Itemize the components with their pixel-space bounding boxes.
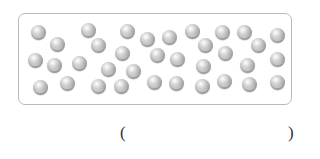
marble-icon [33, 80, 48, 95]
marble-icon [120, 24, 135, 39]
marble-icon [270, 52, 285, 67]
marble-icon [91, 79, 106, 94]
marble-icon [242, 77, 257, 92]
marble-icon [217, 74, 232, 89]
marble-icon [218, 46, 233, 61]
open-parenthesis: ( [120, 123, 126, 143]
marble-icon [81, 23, 96, 38]
marble-icon [237, 25, 252, 40]
marble-icon [114, 79, 129, 94]
marble-icon [170, 52, 185, 67]
marble-icon [195, 79, 210, 94]
marble-icon [101, 62, 116, 77]
marble-icon [147, 75, 162, 90]
close-parenthesis: ) [288, 123, 294, 143]
marble-icon [150, 48, 165, 63]
marble-icon [169, 76, 184, 91]
marble-icon [185, 24, 200, 39]
answer-blank[interactable] [132, 123, 284, 143]
marble-icon [31, 25, 46, 40]
marble-icon [251, 38, 266, 53]
marble-icon [198, 38, 213, 53]
marble-icon [115, 46, 130, 61]
marble-icon [47, 58, 62, 73]
marble-icon [270, 75, 285, 90]
marble-icon [72, 56, 87, 71]
marble-icon [140, 32, 155, 47]
marble-icon [50, 37, 65, 52]
marble-icon [91, 38, 106, 53]
marble-icon [60, 76, 75, 91]
marble-icon [196, 59, 211, 74]
marble-icon [240, 58, 255, 73]
marble-icon [215, 25, 230, 40]
marble-icon [28, 53, 43, 68]
marble-icon [162, 30, 177, 45]
marble-icon [270, 28, 285, 43]
marble-icon [126, 64, 141, 79]
